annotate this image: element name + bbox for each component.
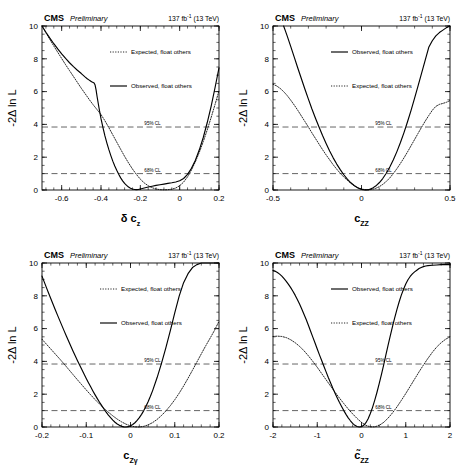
y-tick-label: 4 xyxy=(265,357,270,366)
x-tick-label: -0.6 xyxy=(55,194,69,203)
y-tick-label: 4 xyxy=(34,357,39,366)
plot-canvas: CMSPreliminary137 fb-1 (13 TeV)95% CL68%… xyxy=(0,237,231,474)
panel-top-left: CMSPreliminary137 fb-1 (13 TeV)95% CL68%… xyxy=(0,0,231,237)
y-tick-label: 6 xyxy=(34,87,39,96)
y-tick-label: 8 xyxy=(265,292,270,301)
y-tick-label: 6 xyxy=(34,324,39,333)
x-tick-label: -1 xyxy=(314,431,322,440)
x-axis-label: c̃ZZ xyxy=(354,449,369,464)
cms-label: CMS xyxy=(44,13,64,23)
expected-curve xyxy=(42,321,219,427)
luminosity-label: 137 fb-1 (13 TeV) xyxy=(168,250,219,260)
y-tick-label: 10 xyxy=(260,259,269,268)
legend-observed-label: Observed, float others xyxy=(121,319,182,326)
panel-top-right: CMSPreliminary137 fb-1 (13 TeV)95% CL68%… xyxy=(231,0,462,237)
x-axis-label: cZγ xyxy=(123,449,137,465)
legend-observed-label: Observed, float others xyxy=(352,48,413,55)
x-tick-label: 0.1 xyxy=(169,431,181,440)
luminosity-label: 137 fb-1 (13 TeV) xyxy=(399,13,450,23)
x-tick-label: 0 xyxy=(359,194,364,203)
y-tick-label: 4 xyxy=(34,120,39,129)
y-axis-label: -2Δ ln L xyxy=(6,89,18,126)
y-tick-label: 6 xyxy=(265,87,270,96)
expected-curve xyxy=(273,336,450,427)
panel-bottom-left: CMSPreliminary137 fb-1 (13 TeV)95% CL68%… xyxy=(0,237,231,474)
x-tick-label: 0.2 xyxy=(213,431,225,440)
legend-expected-label: Expected, float others xyxy=(352,82,412,89)
cl-label: 95% CL xyxy=(144,358,161,363)
x-tick-label: -0.2 xyxy=(35,431,49,440)
preliminary-label: Preliminary xyxy=(70,14,109,23)
preliminary-label: Preliminary xyxy=(301,14,340,23)
legend-observed-label: Observed, float others xyxy=(352,285,413,292)
y-tick-label: 10 xyxy=(260,22,269,31)
preliminary-label: Preliminary xyxy=(301,251,340,260)
cms-likelihood-scan-figure: CMSPreliminary137 fb-1 (13 TeV)95% CL68%… xyxy=(0,0,462,474)
x-tick-label: 0 xyxy=(177,194,182,203)
x-tick-label: -0.1 xyxy=(79,431,93,440)
legend-observed-label: Observed, float others xyxy=(131,82,192,89)
y-tick-label: 2 xyxy=(265,153,270,162)
cl-label: 95% CL xyxy=(375,121,392,126)
plot-canvas: CMSPreliminary137 fb-1 (13 TeV)95% CL68%… xyxy=(0,0,231,237)
y-axis-label: -2Δ ln L xyxy=(237,89,249,126)
legend-expected-label: Expected, float others xyxy=(131,48,191,55)
cms-label: CMS xyxy=(275,13,295,23)
x-axis-label: cZZ xyxy=(354,212,369,227)
plot-canvas: CMSPreliminary137 fb-1 (13 TeV)95% CL68%… xyxy=(231,237,462,474)
luminosity-label: 137 fb-1 (13 TeV) xyxy=(168,13,219,23)
preliminary-label: Preliminary xyxy=(70,251,109,260)
luminosity-label: 137 fb-1 (13 TeV) xyxy=(399,250,450,260)
x-tick-label: 0.2 xyxy=(213,194,225,203)
y-tick-label: 6 xyxy=(265,324,270,333)
y-tick-label: 0 xyxy=(34,186,39,195)
x-axis-label: δ cz xyxy=(121,212,141,227)
x-tick-label: -0.4 xyxy=(94,194,108,203)
cl-label: 95% CL xyxy=(144,121,161,126)
x-tick-label: 0 xyxy=(128,431,133,440)
y-tick-label: 8 xyxy=(34,292,39,301)
y-tick-label: 2 xyxy=(34,390,39,399)
x-tick-label: -0.5 xyxy=(266,194,280,203)
legend-expected-label: Expected, float others xyxy=(352,319,412,326)
y-tick-label: 10 xyxy=(29,22,38,31)
y-tick-label: 8 xyxy=(265,55,270,64)
cl-label: 68% CL xyxy=(375,405,392,410)
y-tick-label: 4 xyxy=(265,120,270,129)
y-tick-label: 8 xyxy=(34,55,39,64)
x-tick-label: 2 xyxy=(448,431,453,440)
y-axis-label: -2Δ ln L xyxy=(6,326,18,363)
y-tick-label: 10 xyxy=(29,259,38,268)
cms-label: CMS xyxy=(44,250,64,260)
x-tick-label: -2 xyxy=(269,431,277,440)
x-tick-label: -0.2 xyxy=(133,194,147,203)
x-tick-label: 0 xyxy=(359,431,364,440)
cms-label: CMS xyxy=(275,250,295,260)
plot-canvas: CMSPreliminary137 fb-1 (13 TeV)95% CL68%… xyxy=(231,0,462,237)
panel-bottom-right: CMSPreliminary137 fb-1 (13 TeV)95% CL68%… xyxy=(231,237,462,474)
x-tick-label: 0.5 xyxy=(444,194,456,203)
y-axis-label: -2Δ ln L xyxy=(237,326,249,363)
legend-expected-label: Expected, float others xyxy=(121,285,181,292)
x-tick-label: 1 xyxy=(404,431,409,440)
y-tick-label: 2 xyxy=(265,390,270,399)
cl-label: 68% CL xyxy=(144,168,161,173)
y-tick-label: 2 xyxy=(34,153,39,162)
